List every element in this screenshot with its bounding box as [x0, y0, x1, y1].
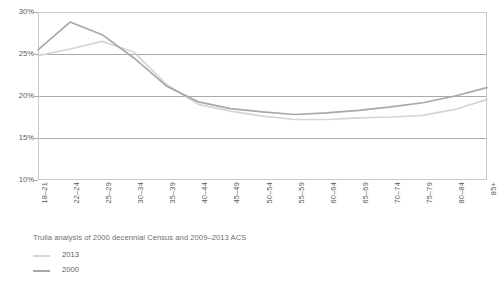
x-axis-labels: 18–2122–2425–2930–3435–3940–4445–4950–54… [38, 182, 487, 228]
legend-label: 2013 [62, 250, 79, 259]
series-layer [38, 12, 487, 180]
y-tick-label: 25% [0, 50, 34, 58]
y-tick-label: 20% [0, 92, 34, 100]
legend-swatch-icon [33, 255, 50, 257]
x-tick-label: 75–79 [426, 182, 434, 204]
x-tick-label: 40–44 [201, 182, 209, 204]
x-tick-label: 50–54 [266, 182, 274, 204]
y-tick-label: 30% [0, 8, 34, 16]
x-tick-label: 18–21 [41, 182, 49, 204]
x-tick-label: 25–29 [105, 182, 113, 204]
x-tick-label: 30–34 [137, 182, 145, 204]
chart-caption: Trulia analysis of 2000 decennial Census… [33, 233, 246, 242]
y-tick-label: 10% [0, 176, 34, 184]
y-tick-mark [34, 180, 38, 181]
series-line-2000 [38, 22, 487, 114]
legend-label: 2000 [62, 265, 79, 274]
x-tick-label: 70–74 [394, 182, 402, 204]
x-tick-label: 35–39 [169, 182, 177, 204]
chart-legend: 20132000 [33, 248, 233, 278]
legend-swatch-icon [33, 270, 50, 272]
x-tick-label: 55–59 [298, 182, 306, 204]
y-tick-label: 15% [0, 134, 34, 142]
x-tick-label: 80–84 [458, 182, 466, 204]
legend-item[interactable]: 2013 [33, 248, 233, 263]
x-tick-label: 22–24 [73, 182, 81, 204]
x-tick-label: 45–49 [233, 182, 241, 204]
chart-figure: 30%25%20%15%10% 18–2122–2425–2930–3435–3… [0, 0, 498, 288]
legend-item[interactable]: 2000 [33, 263, 233, 278]
x-tick-label: 65–69 [362, 182, 370, 204]
x-tick-label: 60–64 [330, 182, 338, 204]
y-axis-labels: 30%25%20%15%10% [0, 12, 34, 180]
x-tick-label: 85+ [490, 182, 498, 195]
series-line-2013 [38, 41, 487, 119]
